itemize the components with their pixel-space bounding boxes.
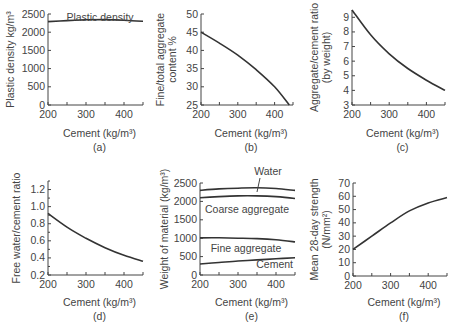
panel-caption: (d) [93,310,106,322]
water-leader-line [257,178,260,192]
y-tick-label: 25 [186,99,198,111]
panel-caption: (a) [93,141,106,153]
panel-c: 2003004003456789Cement (kg/m³)(c)Aggrega… [308,3,445,153]
y-tick-label: 10 [338,256,350,268]
x-tick-label: 400 [419,279,437,291]
axes [48,181,143,275]
data-line [48,213,143,261]
y-axis-label: Fine/total aggregate [154,13,166,107]
y-tick-label: 70 [338,177,350,189]
x-tick-label: 400 [266,108,284,120]
y-tick-label: 30 [186,80,198,92]
x-axis-label: Cement (kg/m³) [366,127,439,139]
annotation-label: Coarse aggregate [205,203,289,215]
chart-title: Plastic density [66,11,134,23]
panel-caption: (c) [396,141,408,153]
data-line [200,188,295,191]
annotation-label: Cement [256,258,293,270]
annotation-label: Water [254,165,282,177]
x-axis-label: Cement (kg/m³) [63,296,136,308]
x-tick-label: 400 [418,108,436,120]
y-tick-label: 2500 [174,177,198,189]
axes [48,14,143,105]
y-tick-label: 1000 [22,62,46,74]
y-tick-label: 1.0 [30,200,45,212]
y-tick-label: 0 [344,270,350,282]
y-axis-label: (by weight) [320,32,332,83]
y-tick-label: 40 [338,216,350,228]
y-tick-label: 50 [338,203,350,215]
y-axis-label: Plastic density kg/m³ [4,11,16,108]
panel-f: 200300400010203040506070Cement (kg/m³)(f… [308,177,447,323]
y-tick-label: 1000 [174,232,198,244]
y-tick-label: 0.4 [30,251,45,263]
y-tick-label: 35 [186,62,198,74]
y-tick-label: 2000 [22,26,46,38]
x-tick-label: 300 [77,278,95,290]
y-tick-label: 8 [343,25,349,37]
x-axis-label: Cement (kg/m³) [215,296,288,308]
y-tick-label: 2500 [22,8,46,20]
x-tick-label: 300 [229,278,247,290]
y-tick-label: 45 [186,26,198,38]
chart-figure: 20030040005001000150020002500Cement (kg/… [0,0,459,325]
x-tick-label: 300 [382,279,400,291]
y-tick-label: 1500 [174,213,198,225]
y-tick-label: 9 [343,11,349,23]
panel-caption: (e) [245,310,258,322]
data-line [353,198,447,250]
y-axis-label: Weight of material (kg/m³) [158,169,170,290]
y-tick-label: 0 [191,269,197,281]
y-axis-label: Mean 28-day strength [308,178,320,280]
y-tick-label: 4 [343,84,349,96]
y-tick-label: 50 [186,8,198,20]
y-tick-label: 2000 [174,195,198,207]
y-tick-label: 3 [343,99,349,111]
y-tick-label: 0.6 [30,234,45,246]
y-tick-label: 500 [27,80,45,92]
y-tick-label: 1500 [22,44,46,56]
y-tick-label: 6 [343,55,349,67]
x-tick-label: 300 [229,108,247,120]
y-tick-label: 30 [338,230,350,242]
data-line [201,32,289,105]
x-tick-label: 400 [115,278,133,290]
x-tick-label: 300 [77,108,95,120]
annotation-label: Fine aggregate [211,242,282,254]
panel-caption: (b) [245,141,258,153]
x-tick-label: 400 [267,278,285,290]
panel-b: 200300400253035404550Cement (kg/m³)(b)Fi… [154,8,293,154]
data-line [200,196,295,199]
panel-d: 2003004000.20.40.60.81.01.2Cement (kg/m³… [10,172,143,322]
y-tick-label: 20 [338,243,350,255]
axes [352,10,445,105]
y-tick-label: 7 [343,40,349,52]
y-tick-label: 500 [179,250,197,262]
panel-e: 20030040005001000150020002500Cement (kg/… [158,165,295,322]
y-tick-label: 5 [343,69,349,81]
y-axis-label: Free water/cement ratio [10,172,22,283]
y-tick-label: 40 [186,44,198,56]
y-tick-label: 60 [338,190,350,202]
panel-caption: (f) [399,310,409,322]
x-tick-label: 400 [115,108,133,120]
y-tick-label: 0 [39,99,45,111]
x-axis-label: Cement (kg/m³) [368,296,441,308]
y-tick-label: 0.8 [30,217,45,229]
y-axis-label: content % [166,36,178,83]
x-axis-label: Cement (kg/m³) [215,127,288,139]
x-tick-label: 300 [380,108,398,120]
y-axis-label: Aggregate/cement ratio [308,3,320,112]
axes [353,183,447,276]
data-line [352,10,445,90]
x-axis-label: Cement (kg/m³) [63,127,136,139]
y-axis-label: (N/mm²) [320,210,332,248]
y-tick-label: 0.2 [30,269,45,281]
panel-a: 20030040005001000150020002500Cement (kg/… [4,8,143,154]
y-tick-label: 1.2 [30,183,45,195]
